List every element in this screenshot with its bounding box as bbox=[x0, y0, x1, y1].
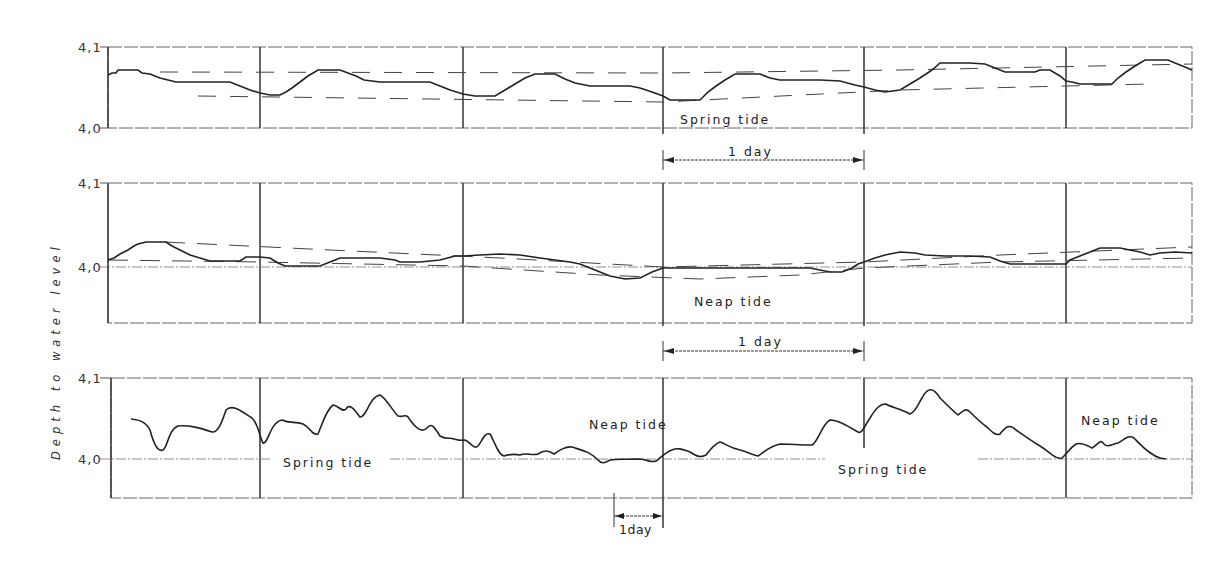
day-span-label: 1 day bbox=[728, 144, 773, 159]
day-dividers bbox=[260, 378, 1066, 528]
annotation-spring-tide-2: Spring tide bbox=[838, 462, 928, 477]
ytick-bottom-low: 4,0 bbox=[78, 452, 102, 467]
day-span-label: 1 day bbox=[738, 334, 783, 349]
water-level-trace bbox=[108, 60, 1192, 100]
ytick-bottom-high: 4,1 bbox=[78, 371, 102, 386]
day-span-label: 1day bbox=[619, 522, 652, 537]
annotation-neap-tide: Neap tide bbox=[694, 294, 773, 309]
panel-frame bbox=[111, 378, 1192, 498]
day-dividers bbox=[260, 47, 1066, 134]
day-dividers bbox=[260, 183, 1066, 326]
panel-frame bbox=[108, 183, 1192, 323]
ytick-middle-high: 4,1 bbox=[78, 176, 102, 191]
panel-middle: 4,1 4,0 Neap tide 1 day bbox=[78, 176, 1192, 361]
chart-figure: Depth to water level 4,1 4,0 Spring tide bbox=[0, 0, 1225, 570]
panel-frame bbox=[108, 47, 1192, 128]
annotation-spring-tide: Spring tide bbox=[680, 112, 770, 127]
panel-bottom: 4,1 4,0 Spring tide Neap tide Spring tid… bbox=[78, 371, 1192, 537]
panel-top: 4,1 4,0 Spring tide 1 day bbox=[78, 40, 1192, 170]
y-axis-label: Depth to water level bbox=[49, 242, 63, 460]
ytick-top-high: 4,1 bbox=[78, 40, 102, 55]
ytick-middle-low: 4,0 bbox=[78, 260, 102, 275]
annotation-spring-tide-1: Spring tide bbox=[283, 455, 373, 470]
annotation-neap-tide-1: Neap tide bbox=[589, 417, 668, 432]
annotation-neap-tide-2: Neap tide bbox=[1081, 413, 1160, 428]
lower-envelope bbox=[108, 258, 1192, 279]
ytick-top-low: 4,0 bbox=[78, 121, 102, 136]
